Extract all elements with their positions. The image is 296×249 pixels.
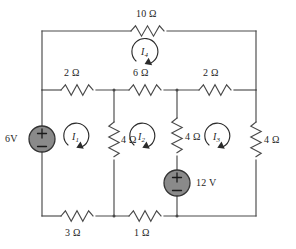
mesh-current-subscript-i3: 3 [217,136,221,144]
resistor-mid-center-6-ohm-symbol [129,85,161,95]
resistor-label-bot-center-1-ohm: 1 Ω [134,227,150,238]
circuit-schematic-svg [0,0,296,249]
resistor-label-vert-right-4-ohm: 4 Ω [264,134,280,145]
resistor-label-top-10-ohm: 10 Ω [136,8,157,19]
mesh-current-subscript-i4: 4 [145,51,149,59]
circuit-diagram-canvas: 10 Ω 2 Ω 6 Ω 2 Ω 4 Ω 4 Ω 4 Ω 3 Ω 1 Ω 6V … [0,0,296,249]
voltage-source-label-6v: 6V [5,133,18,144]
mesh-current-subscript-i1: 1 [76,136,80,144]
resistor-top-10-ohm-symbol [131,26,164,36]
voltage-source-12v-symbol [164,170,190,196]
resistor-label-bot-left-3-ohm: 3 Ω [65,227,81,238]
mesh-current-label-i4: I4 [141,46,148,59]
resistor-right-4-ohm-symbol [251,122,261,157]
resistor-vert-left-4-ohm-symbol [109,122,119,157]
resistor-bot-center-1-ohm-symbol [129,211,161,221]
resistor-label-vert-left-4-ohm: 4 Ω [121,134,137,145]
mesh-current-label-i1: I1 [72,131,79,144]
mesh-current-subscript-i2: 2 [142,136,146,144]
resistor-label-mid-left-2-ohm: 2 Ω [64,67,80,78]
resistor-vert-center-4-ohm-symbol [172,118,182,153]
mesh-current-label-i2: I2 [138,131,145,144]
resistor-label-mid-center-6-ohm: 6 Ω [133,67,149,78]
resistor-bot-left-3-ohm-symbol [61,211,93,221]
voltage-source-6v-symbol [29,126,55,152]
resistor-label-vert-center-4-ohm: 4 Ω [185,131,201,142]
resistor-mid-left-2-ohm-symbol [61,85,93,95]
resistor-mid-right-2-ohm-symbol [199,85,231,95]
mesh-current-label-i3: I3 [213,131,220,144]
resistor-label-mid-right-2-ohm: 2 Ω [203,67,219,78]
voltage-source-label-12v: 12 V [196,177,216,188]
junction-dots [113,89,179,218]
